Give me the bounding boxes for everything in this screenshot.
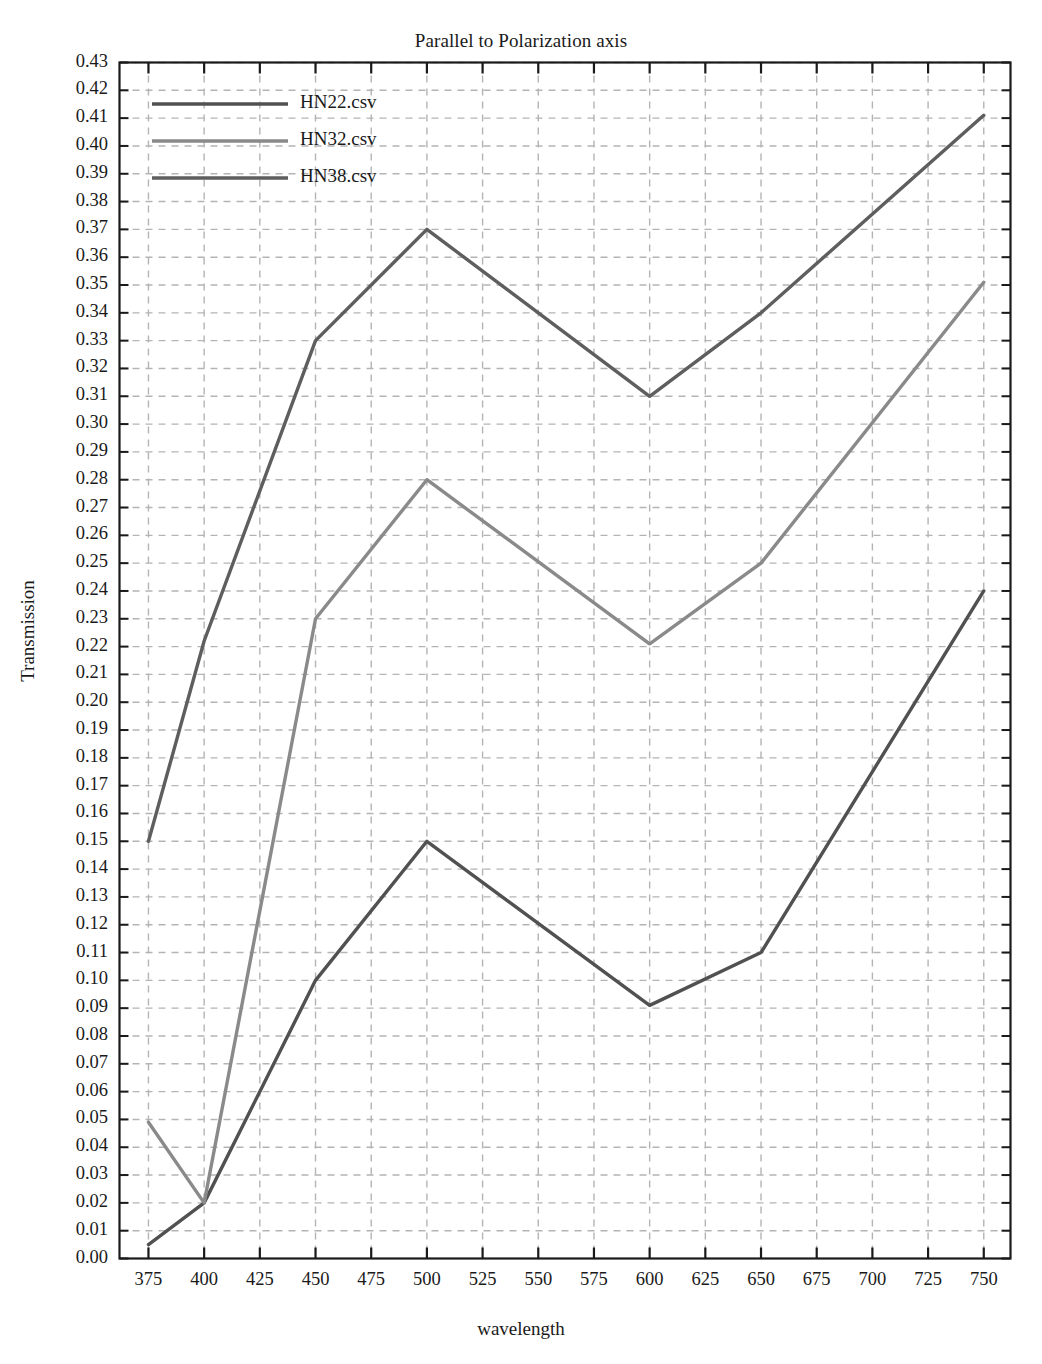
- y-tick-label: 0.02: [40, 1191, 108, 1212]
- legend-entry-hn22-csv[interactable]: HN22.csv: [300, 91, 377, 113]
- y-tick-label: 0.29: [40, 440, 108, 461]
- y-tick-label: 0.40: [40, 134, 108, 155]
- y-tick-label: 0.30: [40, 412, 108, 433]
- legend-entry-hn38-csv[interactable]: HN38.csv: [300, 165, 377, 187]
- y-tick-label: 0.32: [40, 356, 108, 377]
- y-tick-label: 0.00: [40, 1247, 108, 1268]
- y-tick-label: 0.23: [40, 607, 108, 628]
- y-tick-label: 0.04: [40, 1135, 108, 1156]
- axis-ticks: [120, 63, 1011, 1259]
- y-tick-label: 0.27: [40, 496, 108, 517]
- y-tick-label: 0.11: [40, 941, 108, 962]
- x-tick-label: 750: [944, 1269, 1024, 1290]
- y-tick-label: 0.37: [40, 217, 108, 238]
- y-tick-label: 0.20: [40, 690, 108, 711]
- y-tick-label: 0.15: [40, 829, 108, 850]
- y-tick-label: 0.33: [40, 329, 108, 350]
- y-tick-label: 0.19: [40, 718, 108, 739]
- y-tick-label: 0.41: [40, 106, 108, 127]
- y-tick-label: 0.01: [40, 1219, 108, 1240]
- y-tick-label: 0.24: [40, 579, 108, 600]
- y-tick-label: 0.31: [40, 384, 108, 405]
- y-tick-label: 0.39: [40, 162, 108, 183]
- y-tick-label: 0.09: [40, 996, 108, 1017]
- y-tick-label: 0.43: [40, 51, 108, 72]
- y-tick-label: 0.21: [40, 662, 108, 683]
- legend-entry-hn32-csv[interactable]: HN32.csv: [300, 128, 377, 150]
- y-tick-label: 0.36: [40, 245, 108, 266]
- y-tick-label: 0.35: [40, 273, 108, 294]
- y-tick-label: 0.06: [40, 1080, 108, 1101]
- legend-sample-lines: [152, 104, 288, 178]
- y-tick-label: 0.12: [40, 913, 108, 934]
- y-tick-label: 0.16: [40, 801, 108, 822]
- y-tick-label: 0.42: [40, 78, 108, 99]
- y-tick-label: 0.07: [40, 1052, 108, 1073]
- plot-canvas: [0, 0, 1042, 1364]
- y-tick-label: 0.03: [40, 1163, 108, 1184]
- y-tick-label: 0.17: [40, 774, 108, 795]
- chart-figure: Parallel to Polarization axis Transmissi…: [0, 0, 1042, 1364]
- y-tick-label: 0.26: [40, 523, 108, 544]
- y-tick-label: 0.08: [40, 1024, 108, 1045]
- y-tick-label: 0.14: [40, 857, 108, 878]
- y-tick-label: 0.22: [40, 635, 108, 656]
- grid-lines: [120, 63, 1011, 1259]
- y-tick-label: 0.10: [40, 968, 108, 989]
- y-tick-label: 0.28: [40, 468, 108, 489]
- y-tick-label: 0.25: [40, 551, 108, 572]
- y-tick-label: 0.34: [40, 301, 108, 322]
- y-tick-label: 0.18: [40, 746, 108, 767]
- y-tick-label: 0.13: [40, 885, 108, 906]
- y-tick-label: 0.05: [40, 1107, 108, 1128]
- plot-frame: [120, 63, 1011, 1259]
- y-tick-label: 0.38: [40, 190, 108, 211]
